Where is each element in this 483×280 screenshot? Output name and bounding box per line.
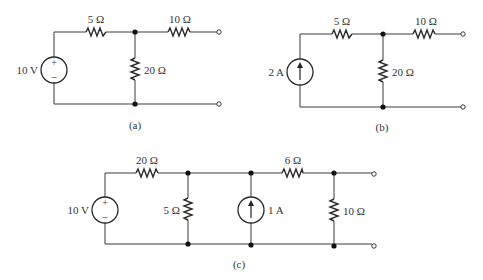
resistor-10-ohm [168, 28, 190, 36]
node-dot [185, 170, 190, 175]
node-dot [132, 29, 137, 34]
resistor-10-ohm [413, 30, 435, 38]
node-dot [248, 170, 253, 175]
caption: (c) [233, 258, 246, 271]
minus-sign: – [51, 71, 58, 82]
terminal-icon [372, 172, 376, 176]
wire [105, 223, 372, 244]
circuit-b: 5 Ω 10 Ω 20 Ω 2 A (b) [268, 15, 465, 134]
resistor-6-ohm [282, 169, 303, 177]
resistor-5-ohm [332, 30, 352, 38]
circuit-a: 5 Ω 10 Ω 20 Ω + – 10 V (a) [17, 13, 222, 132]
node-dot [132, 101, 137, 106]
wire [105, 173, 136, 197]
resistor-label: 5 Ω [88, 13, 104, 25]
resistor-20-ohm [379, 60, 387, 82]
resistor-20-ohm [131, 58, 139, 80]
plus-sign: + [51, 57, 57, 68]
resistor-5-ohm [86, 28, 106, 36]
node-dot [185, 241, 190, 246]
circuit-figure: 5 Ω 10 Ω 20 Ω + – 10 V (a) 5 Ω 10 Ω 20 [0, 0, 483, 280]
caption: (a) [129, 119, 142, 132]
node-dot [380, 104, 385, 109]
terminal-icon [372, 244, 376, 248]
source-label: 1 A [268, 204, 284, 216]
terminal-icon [461, 105, 465, 109]
wire [300, 85, 461, 107]
node-dot [331, 170, 336, 175]
source-label: 2 A [268, 66, 284, 78]
resistor-label: 5 Ω [164, 204, 180, 216]
resistor-label: 10 Ω [343, 205, 365, 217]
caption: (b) [376, 121, 389, 134]
resistor-label: 20 Ω [392, 66, 414, 78]
resistor-label: 20 Ω [144, 64, 166, 76]
resistor-label: 10 Ω [415, 15, 437, 27]
source-label: 10 V [68, 204, 90, 216]
circuit-c: 20 Ω 6 Ω 5 Ω 10 Ω + – 10 V 1 A (c) [68, 154, 377, 271]
terminal-icon [217, 30, 221, 34]
resistor-5-ohm [184, 198, 192, 220]
node-dot [331, 243, 336, 248]
wire [54, 32, 86, 57]
resistor-20-ohm [136, 169, 158, 177]
minus-sign: – [102, 211, 109, 222]
plus-sign: + [102, 197, 108, 208]
resistor-label: 6 Ω [285, 154, 301, 166]
node-dot [380, 31, 385, 36]
resistor-label: 20 Ω [136, 154, 158, 166]
resistor-10-ohm [330, 199, 338, 221]
terminal-icon [461, 32, 465, 36]
node-dot [248, 242, 253, 247]
resistor-label: 10 Ω [169, 13, 191, 25]
wire [300, 34, 332, 59]
resistor-label: 5 Ω [334, 15, 350, 27]
terminal-icon [217, 102, 221, 106]
source-label: 10 V [17, 64, 39, 76]
